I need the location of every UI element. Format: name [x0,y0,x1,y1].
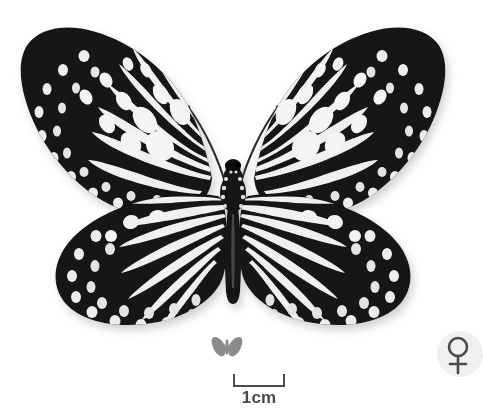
hindwing-left [50,185,240,337]
butterfly-silhouette-icon [211,334,243,360]
butterfly-specimen-image [0,0,466,340]
scale-bar: 1cm [233,374,285,414]
scale-bar-rule [233,374,285,387]
sex-symbol-badge [437,331,483,377]
hindwing-right [226,185,416,337]
scale-bar-label: 1cm [219,388,299,408]
